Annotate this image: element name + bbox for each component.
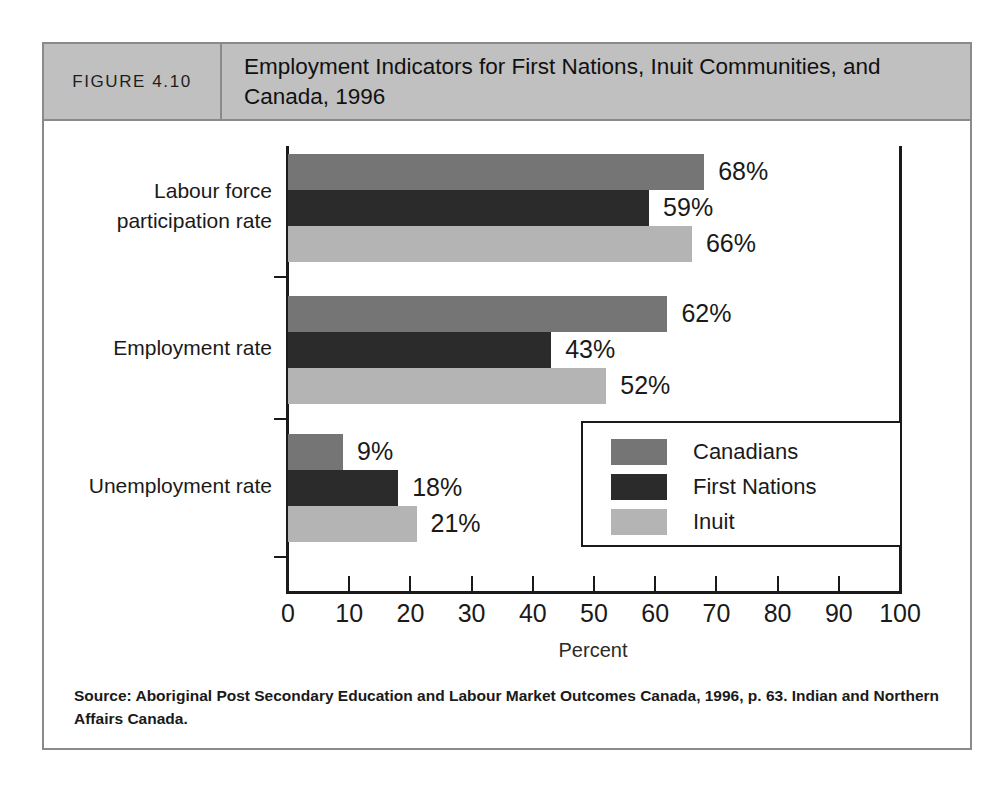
x-tick-label-10: 10: [335, 599, 363, 628]
x-tick-label-60: 60: [641, 599, 669, 628]
bar-canadians-labour-force-participation-rate: [288, 154, 704, 190]
figure-number-cell: FIGURE 4.10: [44, 44, 222, 119]
x-tick-label-70: 70: [702, 599, 730, 628]
chart-legend: CanadiansFirst NationsInuit: [581, 421, 902, 547]
x-tick-label-20: 20: [396, 599, 424, 628]
bar-canadians-unemployment-rate: [288, 434, 343, 470]
legend-label: Canadians: [693, 439, 798, 465]
category-label-unemployment-rate: Unemployment rate: [0, 471, 272, 501]
figure-frame: FIGURE 4.10 Employment Indicators for Fi…: [42, 42, 972, 750]
bar-value-label: 43%: [565, 335, 615, 364]
x-tick-label-100: 100: [879, 599, 921, 628]
bar-first-nations-employment-rate: [288, 332, 551, 368]
legend-swatch: [611, 509, 667, 535]
bar-value-label: 66%: [706, 229, 756, 258]
bar-first-nations-unemployment-rate: [288, 470, 398, 506]
bar-inuit-unemployment-rate: [288, 506, 417, 542]
y-axis-group-tick: [274, 556, 287, 558]
x-tick-70: [715, 576, 717, 592]
category-label-line: Labour force: [0, 176, 272, 206]
category-label-line: Employment rate: [0, 333, 272, 363]
legend-swatch: [611, 439, 667, 465]
x-tick-20: [409, 576, 411, 592]
bar-canadians-employment-rate: [288, 296, 667, 332]
bar-chart-canvas: 0102030405060708090100 68%59%66%62%43%52…: [44, 121, 974, 750]
x-tick-80: [777, 576, 779, 592]
bar-value-label: 62%: [681, 299, 731, 328]
legend-swatch: [611, 474, 667, 500]
legend-label: Inuit: [693, 509, 735, 535]
plot-region: 0102030405060708090100 68%59%66%62%43%52…: [44, 121, 970, 748]
x-axis-title: Percent: [559, 639, 628, 662]
y-axis-group-tick: [274, 418, 287, 420]
bar-inuit-labour-force-participation-rate: [288, 226, 692, 262]
legend-item-first-nations: First Nations: [611, 470, 900, 504]
legend-item-canadians: Canadians: [611, 435, 900, 469]
x-tick-0: [287, 576, 289, 592]
x-tick-50: [593, 576, 595, 592]
bar-value-label: 59%: [663, 193, 713, 222]
x-tick-label-90: 90: [825, 599, 853, 628]
x-tick-label-30: 30: [458, 599, 486, 628]
bar-value-label: 21%: [431, 509, 481, 538]
category-label-line: participation rate: [0, 206, 272, 236]
category-label-employment-rate: Employment rate: [0, 333, 272, 363]
bar-inuit-employment-rate: [288, 368, 606, 404]
x-tick-90: [838, 576, 840, 592]
figure-header-band: FIGURE 4.10 Employment Indicators for Fi…: [44, 44, 970, 121]
x-tick-label-80: 80: [764, 599, 792, 628]
legend-item-inuit: Inuit: [611, 505, 900, 539]
x-tick-10: [348, 576, 350, 592]
bar-value-label: 68%: [718, 157, 768, 186]
bar-value-label: 52%: [620, 371, 670, 400]
category-label-line: Unemployment rate: [0, 471, 272, 501]
x-tick-label-40: 40: [519, 599, 547, 628]
x-tick-60: [654, 576, 656, 592]
x-tick-100: [899, 576, 901, 592]
x-tick-30: [471, 576, 473, 592]
figure-title-cell: Employment Indicators for First Nations,…: [222, 44, 970, 119]
bar-value-label: 9%: [357, 437, 393, 466]
x-tick-label-50: 50: [580, 599, 608, 628]
bar-first-nations-labour-force-participation-rate: [288, 190, 649, 226]
y-axis-group-tick: [274, 276, 287, 278]
source-note: Source: Aboriginal Post Secondary Educat…: [74, 685, 944, 730]
figure-number-label: FIGURE 4.10: [72, 72, 192, 92]
legend-label: First Nations: [693, 474, 816, 500]
x-tick-label-0: 0: [281, 599, 295, 628]
x-tick-40: [532, 576, 534, 592]
figure-title: Employment Indicators for First Nations,…: [244, 52, 954, 111]
category-label-labour-force-participation-rate: Labour forceparticipation rate: [0, 176, 272, 236]
bar-value-label: 18%: [412, 473, 462, 502]
